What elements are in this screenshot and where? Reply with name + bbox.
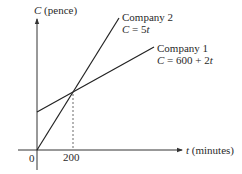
cost-comparison-chart: C (pence) t (minutes) 0 200 Company 2 C … (0, 0, 242, 174)
x-axis-label: t (minutes) (186, 144, 234, 157)
company1-equation: C = 600 + 2t (157, 54, 214, 66)
y-axis-label: C (pence) (34, 4, 77, 17)
tick-label-200: 200 (63, 151, 80, 163)
company2-name: Company 2 (122, 11, 173, 23)
company1-name: Company 1 (157, 42, 208, 54)
company2-line (37, 18, 119, 150)
company2-equation: C = 5t (122, 23, 151, 35)
origin-label: 0 (29, 152, 35, 164)
